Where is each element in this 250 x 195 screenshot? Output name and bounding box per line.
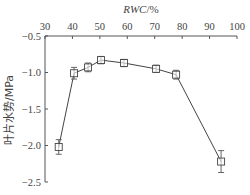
x-tick-label: 40 bbox=[67, 21, 78, 32]
data-point-square bbox=[71, 70, 78, 77]
data-point-square bbox=[85, 64, 92, 71]
x-tick-label: 30 bbox=[40, 21, 51, 32]
series-line bbox=[59, 60, 221, 161]
chart: RWC/% 30405060708090100 −0.5−1.0−1.5−2.0… bbox=[0, 0, 250, 195]
data-point-square bbox=[173, 71, 180, 78]
y-tick-label: −0.5 bbox=[22, 31, 41, 42]
x-tick-label: 60 bbox=[122, 21, 133, 32]
x-tick-label: 50 bbox=[95, 21, 106, 32]
data-series bbox=[55, 56, 224, 172]
x-tick-label: 90 bbox=[204, 21, 215, 32]
x-axis-title: RWC/% bbox=[122, 3, 158, 15]
y-tick-label: −2.5 bbox=[22, 177, 41, 188]
data-point-square bbox=[97, 57, 104, 64]
y-tick-label: −1.5 bbox=[22, 104, 41, 115]
y-tick-label: −2.0 bbox=[22, 140, 41, 151]
y-tick-label: −1.0 bbox=[22, 67, 41, 78]
data-point-square bbox=[55, 143, 62, 150]
y-axis-left: −0.5−1.0−1.5−2.0−2.5 bbox=[22, 31, 48, 188]
data-point-square bbox=[120, 60, 127, 67]
x-tick-label: 80 bbox=[177, 21, 188, 32]
x-tick-label: 100 bbox=[229, 21, 245, 32]
y-axis-title: 叶片水势/MPa bbox=[3, 75, 16, 145]
data-point-square bbox=[153, 65, 160, 72]
data-point-square bbox=[218, 158, 225, 165]
x-tick-label: 70 bbox=[149, 21, 160, 32]
x-axis-top: 30405060708090100 bbox=[40, 21, 245, 39]
